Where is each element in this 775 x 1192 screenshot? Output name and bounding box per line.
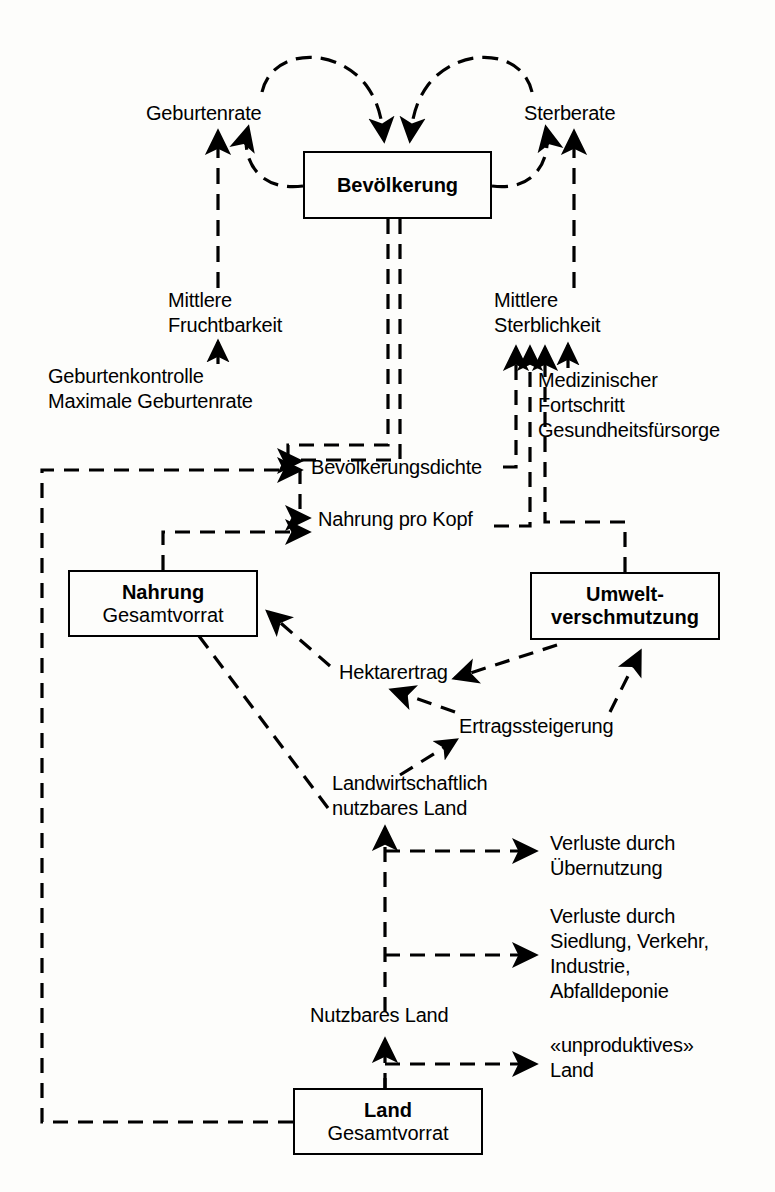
- stock-nahrung-title: Nahrung: [122, 581, 204, 604]
- diagram-canvas: Bevölkerung Nahrung Gesamtvorrat Umwelt-…: [0, 0, 775, 1192]
- link-bevoelkerung-to-dichte: [288, 219, 388, 461]
- stock-land-subtitle: Gesamtvorrat: [327, 1122, 448, 1145]
- label-maximale-geburtenrate: Maximale Geburtenrate: [48, 389, 253, 414]
- link-ertragssteigerung-to-umwelt: [610, 652, 640, 712]
- label-unproduktives-land-line1: «unproduktives»: [550, 1033, 694, 1058]
- arc-birth-loop-out: [246, 128, 303, 187]
- stock-box-nahrung[interactable]: Nahrung Gesamtvorrat: [68, 570, 258, 637]
- label-landwirtschaftlich-line1: Landwirtschaftlich: [332, 771, 487, 796]
- label-verluste-uebernutzung-line1: Verluste durch: [550, 831, 675, 856]
- arc-death-loop-out: [492, 128, 547, 187]
- label-unproduktives-land-line2: Land: [550, 1058, 594, 1083]
- stock-land-title: Land: [364, 1099, 412, 1122]
- link-landwirtschaft-to-ertragssteigerung: [400, 740, 456, 775]
- stock-bevoelkerung-title: Bevölkerung: [337, 174, 458, 197]
- stock-box-bevoelkerung[interactable]: Bevölkerung: [303, 151, 492, 219]
- label-medizinischer-fortschritt-line1: Medizinischer: [538, 368, 658, 393]
- stock-umwelt-title-2: verschmutzung: [551, 606, 699, 629]
- label-mittlere-fruchtbarkeit-line1: Mittlere: [168, 288, 232, 313]
- label-verluste-siedlung-line1: Verluste durch: [550, 904, 675, 929]
- stock-box-umweltverschmutzung[interactable]: Umwelt- verschmutzung: [530, 572, 720, 640]
- label-nahrung-pro-kopf: Nahrung pro Kopf: [318, 507, 473, 532]
- link-hektarertrag-to-nahrung: [268, 612, 330, 666]
- label-mittlere-fruchtbarkeit-line2: Fruchtbarkeit: [168, 313, 282, 338]
- label-verluste-siedlung-line3: Industrie,: [550, 954, 630, 979]
- label-hektarertrag: Hektarertrag: [339, 660, 448, 685]
- label-bevoelkerungsdichte: Bevölkerungsdichte: [311, 455, 482, 480]
- link-nahrung-to-nahrungprokopf: [163, 532, 308, 570]
- link-dichte-to-sterblichkeit: [503, 348, 516, 467]
- label-verluste-siedlung-line2: Siedlung, Verkehr,: [550, 929, 709, 954]
- label-geburtenkontrolle: Geburtenkontrolle: [48, 364, 204, 389]
- label-geburtenrate: Geburtenrate: [146, 101, 261, 126]
- stock-box-land[interactable]: Land Gesamtvorrat: [293, 1088, 483, 1155]
- label-verluste-siedlung-line4: Abfalldeponie: [550, 979, 669, 1004]
- link-ertragssteigerung-to-hektarertrag: [392, 690, 455, 712]
- stock-umwelt-title: Umwelt-: [586, 583, 664, 606]
- label-gesundheitsfuersorge: Gesundheitsfürsorge: [538, 418, 720, 443]
- label-medizinischer-fortschritt-line2: Fortschritt: [538, 393, 625, 418]
- label-ertragssteigerung: Ertragssteigerung: [459, 714, 613, 739]
- link-land-to-dichte: [42, 470, 300, 1122]
- label-sterberate: Sterberate: [524, 101, 615, 126]
- label-landwirtschaftlich-line2: nutzbares Land: [332, 796, 467, 821]
- label-mittlere-sterblichkeit-line1: Mittlere: [494, 288, 558, 313]
- link-nahrungprokopf-to-sterblichkeit: [494, 348, 530, 526]
- label-nutzbares-land: Nutzbares Land: [310, 1003, 448, 1028]
- label-mittlere-sterblichkeit-line2: Sterblichkeit: [494, 313, 600, 338]
- label-verluste-uebernutzung-line2: Übernutzung: [550, 856, 662, 881]
- stock-nahrung-subtitle: Gesamtvorrat: [102, 604, 223, 627]
- link-umwelt-to-hektarertrag: [455, 645, 557, 678]
- arc-birth-loop-in: [262, 57, 384, 140]
- arc-death-loop-in: [410, 57, 532, 140]
